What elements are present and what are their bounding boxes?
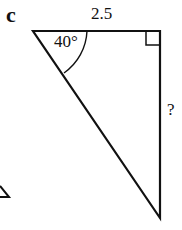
part-label: c xyxy=(6,2,16,28)
angle-label: 40° xyxy=(54,32,78,52)
right-triangle xyxy=(33,31,160,218)
right-angle-marker xyxy=(146,31,160,45)
triangle-diagram xyxy=(0,0,182,230)
top-side-length: 2.5 xyxy=(91,4,112,24)
partial-triangle-fragment xyxy=(0,186,9,197)
unknown-side-label: ? xyxy=(167,100,175,120)
